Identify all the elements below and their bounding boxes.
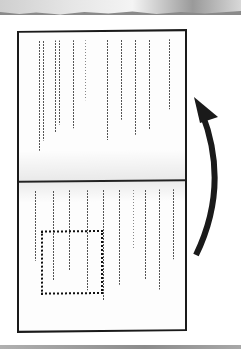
text-column: [107, 40, 108, 140]
upper-panel-text: [25, 39, 179, 173]
curved-arrow-icon: [190, 95, 230, 265]
folded-document-sheet: [17, 29, 187, 333]
text-column: [133, 190, 134, 250]
text-column: [35, 191, 36, 261]
text-column: [135, 40, 136, 135]
text-column: [145, 190, 146, 280]
text-column: [119, 190, 120, 285]
text-column: [85, 40, 86, 100]
text-column: [121, 40, 122, 120]
text-column: [169, 39, 170, 109]
text-column: [59, 40, 60, 124]
text-column: [149, 39, 150, 129]
text-column: [39, 41, 40, 151]
text-column: [159, 189, 160, 289]
text-column: [73, 40, 74, 128]
text-column: [103, 190, 104, 300]
text-column: [55, 40, 56, 132]
dotted-placeholder-box: [41, 230, 103, 295]
scan-bottom-band: [0, 345, 241, 349]
text-column: [173, 189, 174, 259]
text-column: [43, 41, 44, 141]
scan-top-band: [0, 0, 241, 14]
